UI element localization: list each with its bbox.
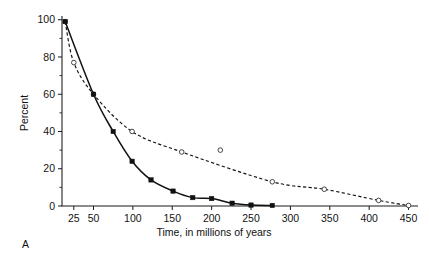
data-point-open-circle (218, 148, 223, 153)
x-tick-label: 250 (242, 212, 260, 224)
x-tick-label: 50 (88, 212, 100, 224)
y-tick-label: 80 (43, 51, 55, 63)
x-tick-label: 300 (282, 212, 300, 224)
x-tick-label: 400 (360, 212, 378, 224)
y-tick-label: 60 (43, 88, 55, 100)
data-point-filled-square (209, 196, 213, 200)
data-point-filled-square (130, 159, 134, 163)
x-tick-label: 25 (68, 212, 80, 224)
data-point-filled-square (191, 195, 195, 199)
data-point-filled-square (91, 92, 95, 96)
data-point-filled-square (149, 178, 153, 182)
data-point-filled-square (230, 201, 234, 205)
x-tick-label: 350 (321, 212, 339, 224)
data-point-open-circle (270, 179, 275, 184)
y-tick-label: 0 (49, 200, 55, 212)
x-tick-label: 100 (124, 212, 142, 224)
data-point-filled-square (249, 203, 253, 207)
x-tick-label: 200 (203, 212, 221, 224)
data-point-filled-square (111, 129, 115, 133)
data-point-open-circle (130, 129, 135, 134)
data-point-open-circle (322, 187, 327, 192)
data-point-open-circle (376, 198, 381, 203)
data-point-open-circle (406, 203, 411, 208)
data-point-open-circle (72, 60, 77, 65)
data-point-filled-square (171, 189, 175, 193)
line-chart: 2550100150200250300350400450 02040608010… (0, 0, 429, 260)
data-point-open-circle (179, 150, 184, 155)
y-tick-label: 40 (43, 125, 55, 137)
data-point-filled-square (270, 203, 274, 207)
x-axis-title: Time, in millions of years (156, 226, 271, 238)
y-axis-title: Percent (18, 95, 30, 131)
y-tick-label: 100 (37, 13, 55, 25)
panel-label: A (22, 238, 29, 250)
data-point-filled-square (63, 19, 67, 23)
figure-panel: 2550100150200250300350400450 02040608010… (0, 0, 429, 260)
y-tick-label: 20 (43, 162, 55, 174)
x-tick-label: 150 (163, 212, 181, 224)
x-tick-label: 450 (400, 212, 418, 224)
